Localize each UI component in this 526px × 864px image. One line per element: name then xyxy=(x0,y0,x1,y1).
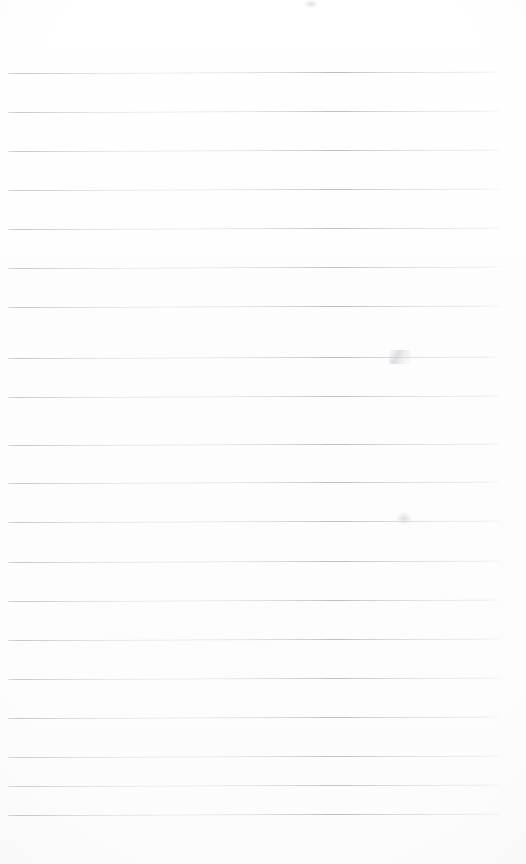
writing-area[interactable] xyxy=(8,73,500,823)
scan-speck-top xyxy=(304,0,318,8)
notebook-page xyxy=(0,0,526,864)
